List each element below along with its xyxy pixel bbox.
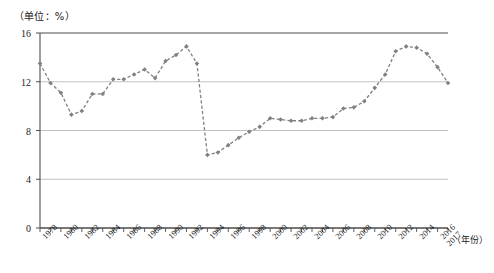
data-point	[299, 118, 304, 123]
data-point	[331, 115, 336, 120]
data-point	[372, 86, 377, 91]
y-tick-label: 16	[11, 28, 31, 39]
data-point	[414, 45, 419, 50]
data-point	[69, 112, 74, 117]
data-point	[90, 92, 95, 97]
data-point	[320, 116, 325, 121]
data-point	[205, 153, 210, 158]
y-tick-label: 0	[11, 223, 31, 234]
data-point	[278, 117, 283, 122]
data-series-line	[40, 46, 448, 154]
data-point	[404, 44, 409, 49]
y-tick-label: 12	[11, 76, 31, 87]
data-point	[257, 125, 262, 130]
data-point	[310, 116, 315, 121]
data-point	[80, 109, 85, 114]
y-tick-label: 4	[11, 174, 31, 185]
y-tick-label: 8	[11, 125, 31, 136]
data-point	[393, 49, 398, 54]
gridlines	[40, 33, 448, 228]
x-axis-title: （年份）	[452, 233, 488, 246]
data-point	[362, 99, 367, 104]
data-point	[289, 118, 294, 123]
data-point	[132, 72, 137, 77]
data-series-markers	[38, 44, 451, 157]
data-point	[142, 67, 147, 72]
data-point	[111, 77, 116, 82]
y-axis-unit-label: （单位：%）	[14, 8, 75, 23]
data-point	[121, 77, 126, 82]
chart-figure: （单位：%） 0481216 1978198019821984198619881…	[0, 0, 494, 273]
data-point	[195, 61, 200, 66]
data-point	[38, 61, 43, 66]
